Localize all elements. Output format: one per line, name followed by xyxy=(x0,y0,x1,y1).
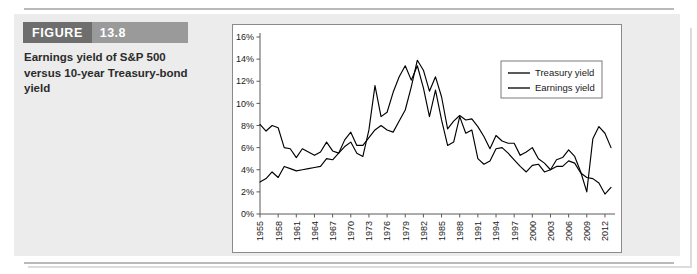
x-axis-tick-label: 1961 xyxy=(292,221,302,241)
x-axis-tick-label: 1994 xyxy=(491,221,501,241)
x-axis-tick-label: 1967 xyxy=(328,221,338,241)
x-axis-tick-label: 1988 xyxy=(455,221,465,241)
x-axis-tick-label: 2009 xyxy=(582,221,592,241)
y-axis-tick-label: 14% xyxy=(236,54,254,64)
y-axis-tick-label: 16% xyxy=(236,32,254,42)
x-axis-tick-label: 1955 xyxy=(255,221,265,241)
x-axis-tick-label: 2012 xyxy=(600,221,610,241)
figure-tag: FIGURE 13.8 xyxy=(23,22,188,43)
x-axis-tick-label: 1973 xyxy=(364,221,374,241)
x-axis-tick-label: 1997 xyxy=(510,221,520,241)
x-axis-tick-label: 1976 xyxy=(382,221,392,241)
figure-tag-number: 13.8 xyxy=(92,22,188,43)
top-divider xyxy=(24,8,674,10)
x-axis-tick-label: 1985 xyxy=(437,221,447,241)
chart-frame: 0%2%4%6%8%10%12%14%16%195519581961196419… xyxy=(232,24,622,253)
x-axis-tick-label: 2003 xyxy=(546,221,556,241)
x-axis-tick-label: 1991 xyxy=(473,221,483,241)
y-axis-tick-label: 8% xyxy=(241,121,254,131)
y-axis-tick-label: 12% xyxy=(236,76,254,86)
legend-label: Earnings yield xyxy=(535,82,595,93)
figure-tag-word: FIGURE xyxy=(23,22,92,43)
x-axis-tick-label: 1979 xyxy=(401,221,411,241)
line-chart-svg: 0%2%4%6%8%10%12%14%16%195519581961196419… xyxy=(233,25,623,254)
y-axis-tick-label: 6% xyxy=(241,143,254,153)
figure-page: FIGURE 13.8 Earnings yield of S&P 500 ve… xyxy=(0,0,697,274)
y-axis-tick-label: 2% xyxy=(241,187,254,197)
x-axis-tick-label: 2000 xyxy=(528,221,538,241)
y-axis-tick-label: 10% xyxy=(236,99,254,109)
x-axis-tick-label: 2006 xyxy=(564,221,574,241)
figure-caption: Earnings yield of S&P 500 versus 10-year… xyxy=(24,50,204,97)
legend-label: Treasury yield xyxy=(535,67,594,78)
y-axis-tick-label: 0% xyxy=(241,209,254,219)
y-axis-tick-label: 4% xyxy=(241,165,254,175)
x-axis-tick-label: 1958 xyxy=(274,221,284,241)
chart-plot-area: 0%2%4%6%8%10%12%14%16%195519581961196419… xyxy=(233,25,623,254)
x-axis-tick-label: 1964 xyxy=(310,221,320,241)
x-axis-tick-label: 1982 xyxy=(419,221,429,241)
x-axis-tick-label: 1970 xyxy=(346,221,356,241)
